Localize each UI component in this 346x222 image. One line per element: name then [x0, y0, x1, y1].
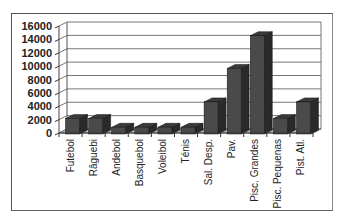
y-tick-mark: [55, 80, 59, 82]
bar-pisc-grandes: [250, 36, 264, 134]
side-gridline: [59, 35, 67, 39]
x-category-label: Pist. Atl.: [295, 139, 306, 175]
x-category-label: Râguebi: [88, 139, 99, 176]
x-category-label: Pisc. Pequenas: [272, 139, 283, 209]
y-tick-mark: [55, 106, 59, 108]
y-tick-label: 10000: [21, 60, 52, 72]
bar-futebol: [66, 119, 80, 134]
y-tick-mark: [55, 93, 59, 95]
bar-pisc-pequenas: [273, 119, 287, 134]
x-category-label: Futebol: [65, 139, 76, 172]
y-tick-label: 8000: [28, 74, 52, 86]
side-gridline: [59, 102, 67, 106]
x-category-label: Ténis: [180, 139, 191, 163]
y-tick-mark: [55, 66, 59, 68]
y-tick-label: 14000: [21, 33, 52, 45]
x-category-label: Pav.: [226, 139, 237, 158]
y-tick-mark: [55, 133, 59, 135]
bar-side: [264, 32, 272, 134]
side-gridline: [59, 62, 67, 66]
bar-pav-: [227, 68, 241, 134]
y-tick-mark: [55, 26, 59, 28]
side-gridline: [59, 49, 67, 53]
y-tick-label: 2000: [28, 114, 52, 126]
x-category-label: Voleibol: [157, 139, 168, 174]
bar-r-guebi: [89, 119, 103, 134]
x-category-label: Pisc. Grandes: [249, 139, 260, 202]
side-gridline: [59, 76, 67, 80]
x-category-label: Basquebol: [134, 139, 145, 186]
y-tick-label: 12000: [21, 47, 52, 59]
bar-side: [310, 98, 318, 134]
side-gridline: [59, 89, 67, 93]
y-tick-label: 0: [46, 127, 52, 139]
x-category-label: Andebol: [111, 139, 122, 176]
y-tick-label: 6000: [28, 87, 52, 99]
y-tick-mark: [55, 120, 59, 122]
bar-side: [241, 64, 249, 134]
y-tick-label: 16000: [21, 20, 52, 32]
bar-side: [218, 98, 226, 134]
y-tick-mark: [55, 53, 59, 55]
x-category-label: Sal. Desp.: [203, 139, 214, 185]
side-gridline: [59, 22, 67, 26]
bar-chart-3d: 0200040006000800010000120001400016000Fut…: [0, 0, 346, 222]
y-tick-label: 4000: [28, 100, 52, 112]
bar-pist-atl-: [296, 102, 310, 134]
y-tick-mark: [55, 39, 59, 41]
bar-sal-desp-: [204, 102, 218, 134]
